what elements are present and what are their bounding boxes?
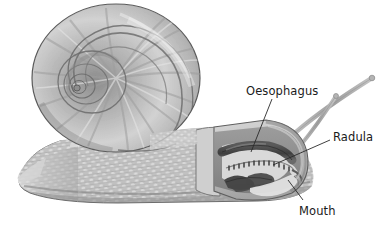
- snail-illustration: [0, 0, 381, 234]
- label-oesophagus: Oesophagus: [246, 84, 318, 98]
- snail-anatomy-figure: Oesophagus Radula Mouth: [0, 0, 381, 234]
- label-radula: Radula: [333, 130, 373, 144]
- label-mouth: Mouth: [299, 204, 336, 218]
